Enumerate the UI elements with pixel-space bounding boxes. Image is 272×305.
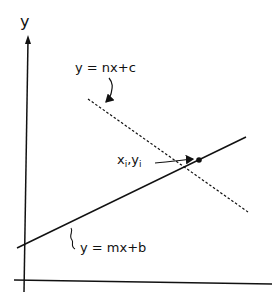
diagram-canvas: y y = nx+c xi,yi y = mx+b bbox=[0, 0, 272, 305]
label-mx-b: y = mx+b bbox=[80, 240, 146, 255]
line-nx-c bbox=[88, 99, 248, 212]
curved-arrow-icon bbox=[106, 78, 112, 102]
y-axis-arrow-icon bbox=[25, 35, 31, 44]
label-intersection: xi,yi bbox=[117, 152, 142, 169]
y-axis bbox=[24, 35, 31, 292]
x-axis bbox=[14, 280, 272, 284]
y-axis-label: y bbox=[20, 12, 29, 31]
intersection-point bbox=[196, 157, 202, 163]
label-nx-c: y = nx+c bbox=[75, 60, 136, 75]
squiggle-pointer-icon bbox=[71, 228, 75, 249]
